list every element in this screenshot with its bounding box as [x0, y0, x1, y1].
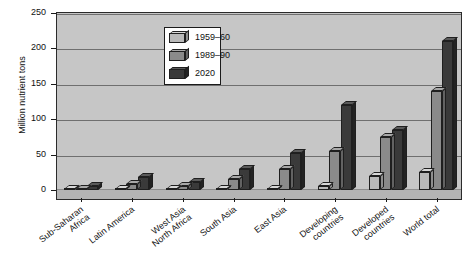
- legend-label-1: 1989–90: [195, 50, 230, 60]
- bar: [166, 189, 177, 191]
- bar-side-face: [200, 178, 204, 190]
- x-tick-label: East Asia: [253, 204, 289, 235]
- bar-side-face: [250, 166, 254, 190]
- y-tick-label: 150: [16, 78, 46, 88]
- x-tick-mark: [437, 198, 438, 202]
- x-tick-mark: [335, 198, 336, 202]
- bar-front-face: [369, 176, 380, 190]
- legend-swatch-1989-90: [169, 49, 189, 61]
- x-tick-mark: [183, 198, 184, 202]
- x-tick-label: World total: [401, 204, 441, 238]
- bar-front-face: [267, 188, 278, 190]
- legend-label-2: 2020: [195, 68, 215, 78]
- y-tick-label: 200: [16, 42, 46, 52]
- bar-front-face: [216, 188, 227, 190]
- bar-side-face: [453, 38, 457, 190]
- bar-side-face: [340, 148, 344, 190]
- bar-group: [64, 13, 99, 190]
- x-tick-label: Developingcountries: [298, 204, 346, 247]
- bar: [76, 189, 87, 191]
- bar-side-face: [352, 102, 356, 190]
- bar: [419, 172, 430, 190]
- y-tick-label: 0: [16, 184, 46, 194]
- legend: 1959–60 1989–90 2020: [164, 27, 221, 85]
- y-tick-label: 50: [16, 149, 46, 159]
- legend-label-0: 1959–60: [195, 32, 230, 42]
- bar-side-face: [301, 150, 305, 190]
- x-tick-label-line: Latin America: [87, 204, 136, 245]
- bar: [216, 189, 227, 191]
- x-tick-label: Sub-SaharanAfrica: [38, 204, 92, 252]
- x-tick-label: Developedcountries: [350, 204, 396, 246]
- plot-area: 1959–60 1989–90 2020: [56, 12, 462, 200]
- bar-side-face: [149, 174, 153, 190]
- bar-front-face: [115, 188, 126, 190]
- bar-front-face: [318, 186, 329, 190]
- legend-swatch-1959-60: [169, 31, 189, 43]
- bar: [318, 186, 329, 190]
- bar-front-face: [419, 172, 430, 190]
- x-tick-mark: [81, 198, 82, 202]
- legend-swatch-2020: [169, 67, 189, 79]
- bar-side-face: [403, 127, 407, 190]
- bar: [369, 176, 380, 190]
- x-tick-label-line: World total: [401, 204, 441, 238]
- y-tick-label: 250: [16, 7, 46, 17]
- x-tick-label: South Asia: [198, 204, 238, 238]
- x-tick-label-line: East Asia: [253, 204, 289, 235]
- bar-group: [115, 13, 150, 190]
- x-tick-label-line: South Asia: [198, 204, 238, 238]
- y-tick-label: 100: [16, 113, 46, 123]
- bar-front-face: [76, 188, 87, 190]
- bar-group: [267, 13, 302, 190]
- x-tick-mark: [284, 198, 285, 202]
- bar-side-face: [442, 88, 446, 190]
- bar-front-face: [64, 188, 75, 190]
- bar-group: [369, 13, 404, 190]
- chart-figure: Million nutrient tons 050100150200250 19…: [0, 0, 473, 272]
- bar-side-face: [98, 183, 102, 190]
- x-axis-labels: Sub-SaharanAfricaLatin AmericaWest AsiaN…: [0, 198, 473, 272]
- bar: [115, 189, 126, 191]
- bar: [267, 189, 278, 191]
- bar-series-container: [57, 13, 461, 199]
- x-tick-mark: [132, 198, 133, 202]
- x-tick-mark: [386, 198, 387, 202]
- bar-side-face: [391, 134, 395, 190]
- x-tick-label: West AsiaNorth Africa: [144, 204, 193, 249]
- bar: [64, 189, 75, 191]
- bar-side-face: [380, 173, 384, 190]
- bar-group: [318, 13, 353, 190]
- bar-front-face: [166, 188, 177, 190]
- x-tick-label: Latin America: [87, 204, 136, 245]
- bar-side-face: [290, 166, 294, 190]
- x-tick-mark: [234, 198, 235, 202]
- bar-group: [419, 13, 454, 190]
